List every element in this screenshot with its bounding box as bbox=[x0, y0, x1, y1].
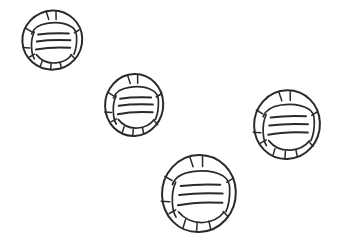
object-2-tick-bottom-1 bbox=[122, 127, 124, 133]
object-4-tick-bottom-3 bbox=[209, 221, 211, 229]
object-4-tick-bottom-1 bbox=[183, 220, 185, 228]
sketch-object-2 bbox=[105, 74, 163, 136]
object-1-rule-1 bbox=[38, 33, 69, 34]
object-1-rule-2 bbox=[37, 40, 71, 41]
object-2-rule-1 bbox=[120, 97, 151, 98]
object-4-tick-left-lower bbox=[161, 201, 170, 202]
object-1-tick-top-1 bbox=[46, 12, 48, 19]
object-2-tick-bottom-3 bbox=[143, 128, 144, 134]
object-1-tick-right-lower bbox=[71, 55, 75, 59]
object-3-tick-right-lower bbox=[309, 142, 314, 147]
object-2-tick-left-upper bbox=[108, 92, 114, 95]
object-3-rule-3 bbox=[268, 132, 308, 134]
object-2-tick-bottom-2 bbox=[133, 129, 134, 136]
sketch-object-3 bbox=[253, 90, 320, 159]
object-1-tick-bottom-2 bbox=[51, 63, 52, 70]
object-1-rule-3 bbox=[36, 47, 70, 49]
object-4-rule-1 bbox=[181, 184, 221, 186]
object-2-tick-top-1 bbox=[128, 76, 131, 84]
sketch-object-4 bbox=[161, 155, 236, 232]
object-2-rule-3 bbox=[118, 112, 153, 114]
object-4-tick-top-1 bbox=[190, 158, 193, 167]
object-3-tick-bottom-2 bbox=[285, 151, 286, 159]
sketch-drawing bbox=[0, 0, 340, 250]
object-3-tick-top-1 bbox=[279, 92, 282, 100]
object-1-tick-bottom-1 bbox=[40, 61, 42, 67]
sketch-object-1 bbox=[22, 10, 82, 69]
object-4-rule-3 bbox=[178, 202, 222, 205]
sketch-canvas bbox=[0, 0, 340, 250]
object-3-tick-bottom-1 bbox=[273, 149, 275, 156]
object-4-tick-bottom-2 bbox=[197, 223, 198, 231]
object-1-tick-bottom-3 bbox=[60, 62, 61, 68]
object-3-rule-1 bbox=[271, 116, 306, 117]
object-4-rule-2 bbox=[179, 193, 222, 195]
object-1-tick-left-upper bbox=[26, 28, 31, 31]
object-2-rule-2 bbox=[119, 104, 153, 105]
object-3-rule-2 bbox=[269, 124, 308, 126]
object-3-tick-bottom-3 bbox=[296, 150, 298, 157]
